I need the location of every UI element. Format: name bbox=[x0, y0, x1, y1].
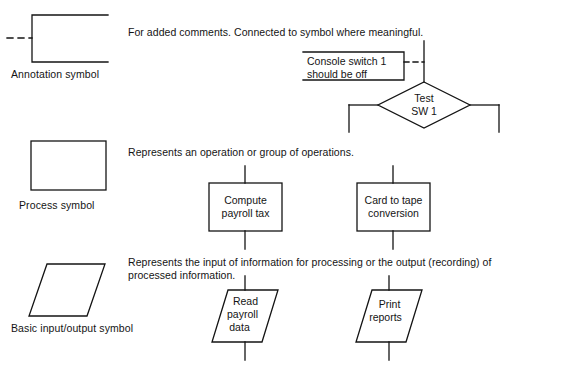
input-output-description-line-1: Represents the input of information for … bbox=[128, 256, 558, 269]
io-legend-parallelogram bbox=[29, 264, 105, 316]
process2-label-line-1: Card to tape bbox=[355, 194, 432, 208]
annotation-symbol-legend bbox=[7, 15, 108, 62]
process-symbol-description: Represents an operation or group of oper… bbox=[128, 146, 354, 159]
io1-label-line-2: payroll bbox=[206, 308, 279, 322]
process-symbol-caption: Process symbol bbox=[19, 199, 95, 211]
io2-label-line-2: reports bbox=[349, 311, 422, 325]
flowchart-symbols-diagram: Annotation symbol For added comments. Co… bbox=[0, 0, 573, 371]
annotation-symbol-description: For added comments. Connected to symbol … bbox=[128, 26, 423, 39]
decision-label-line-1: Test bbox=[396, 92, 452, 106]
diagram-line-art bbox=[0, 0, 573, 371]
io1-label-line-3: data bbox=[203, 321, 276, 335]
process2-label-line-2: conversion bbox=[355, 207, 432, 221]
input-output-symbol-legend bbox=[29, 264, 105, 316]
io1-label-line-1: Read bbox=[209, 295, 282, 309]
process-legend-rect bbox=[31, 141, 106, 190]
process1-label-line-1: Compute bbox=[209, 194, 282, 208]
console-switch-note-line-2: should be off bbox=[307, 68, 367, 81]
input-output-description-line-2: processed information. bbox=[128, 269, 235, 282]
annotation-bracket-shape bbox=[32, 15, 108, 62]
console-switch-note-line-1: Console switch 1 bbox=[307, 55, 386, 68]
decision-label-line-2: SW 1 bbox=[396, 105, 452, 119]
io2-label-line-1: Print bbox=[353, 298, 426, 312]
process-symbol-legend bbox=[31, 141, 106, 190]
annotation-symbol-caption: Annotation symbol bbox=[11, 68, 99, 80]
input-output-symbol-caption: Basic input/output symbol bbox=[11, 322, 133, 334]
process1-label-line-2: payroll tax bbox=[209, 207, 282, 221]
